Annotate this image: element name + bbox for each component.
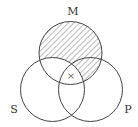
shaded-region xyxy=(0,0,138,127)
label-p: P xyxy=(124,103,132,116)
label-s: S xyxy=(10,103,18,116)
venn-diagram: M S P × xyxy=(0,0,138,127)
x-mark: × xyxy=(67,70,75,81)
label-m: M xyxy=(67,5,78,18)
